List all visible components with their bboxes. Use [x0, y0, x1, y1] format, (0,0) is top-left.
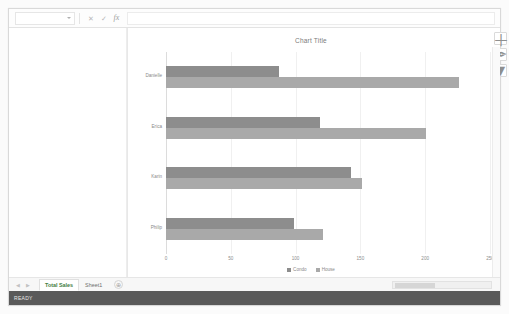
axis-tick-label: 50 — [228, 256, 233, 261]
status-bar: READY — [9, 291, 500, 305]
sheet-nav-buttons: ◀ ▶ — [14, 282, 31, 288]
value-axis-ticks: 050100150200250 — [166, 256, 490, 266]
axis-tick-label: 200 — [421, 256, 429, 261]
gridline — [490, 52, 491, 254]
sheet-tab-sheet1[interactable]: Sheet1 — [79, 279, 108, 291]
chart-object[interactable]: Chart Title DanielleEricaKarinPhilip 050… — [127, 28, 494, 282]
insert-function-icon[interactable]: fx — [110, 12, 123, 25]
plot-area: DanielleEricaKarinPhilip — [166, 52, 490, 254]
legend-item[interactable]: House — [316, 267, 335, 272]
horizontal-scrollbar[interactable] — [392, 281, 492, 289]
chart-title[interactable]: Chart Title — [128, 37, 494, 44]
add-sheet-icon[interactable]: ⊕ — [114, 280, 123, 289]
horizontal-scrollbar-thumb[interactable] — [395, 283, 435, 288]
bar[interactable] — [166, 66, 279, 77]
bar-group: Philip — [166, 204, 490, 255]
bar[interactable] — [166, 77, 459, 88]
chart-elements-icon[interactable]: ＋ — [494, 32, 507, 45]
cancel-formula-icon[interactable]: ✕ — [84, 12, 97, 25]
spreadsheet-window: ✕ ✓ fx Chart Title DanielleEricaKarinPhi… — [8, 8, 501, 306]
formula-bar: ✕ ✓ fx — [9, 9, 500, 28]
bar[interactable] — [166, 128, 426, 139]
worksheet-body: Chart Title DanielleEricaKarinPhilip 050… — [9, 28, 500, 282]
status-text: READY — [14, 295, 33, 301]
formula-input[interactable] — [127, 12, 495, 25]
bar-group: Erica — [166, 103, 490, 154]
axis-tick-label: 150 — [357, 256, 365, 261]
legend-swatch — [316, 268, 320, 272]
category-label: Danielle — [145, 74, 162, 79]
sheet-tabs: Total SalesSheet1 — [39, 278, 108, 291]
worksheet-grid-area[interactable] — [9, 28, 127, 282]
chart-legend[interactable]: CondoHouse — [128, 267, 494, 272]
category-label: Philip — [151, 226, 162, 231]
bar[interactable] — [166, 167, 351, 178]
sheet-tab-total-sales[interactable]: Total Sales — [39, 279, 79, 291]
legend-swatch — [287, 268, 291, 272]
bar[interactable] — [166, 218, 294, 229]
bar[interactable] — [166, 178, 362, 189]
name-box[interactable] — [15, 12, 75, 25]
legend-label: Condo — [293, 267, 307, 272]
excel-window-screenshot: ✕ ✓ fx Chart Title DanielleEricaKarinPhi… — [0, 0, 509, 314]
bar[interactable] — [166, 117, 320, 128]
bar[interactable] — [166, 229, 323, 240]
vertical-scrollbar[interactable] — [492, 47, 500, 301]
sheet-nav-next-icon[interactable]: ▶ — [24, 282, 31, 288]
bar-group: Danielle — [166, 52, 490, 103]
legend-label: House — [322, 267, 335, 272]
category-label: Karin — [151, 175, 162, 180]
axis-tick-label: 100 — [292, 256, 300, 261]
bar-group: Karin — [166, 153, 490, 204]
axis-tick-label: 0 — [165, 256, 168, 261]
chevron-down-icon[interactable] — [67, 17, 71, 19]
divider — [79, 13, 80, 24]
legend-item[interactable]: Condo — [287, 267, 307, 272]
category-label: Erica — [152, 125, 162, 130]
confirm-formula-icon[interactable]: ✓ — [97, 12, 110, 25]
sheet-nav-prev-icon[interactable]: ◀ — [14, 282, 21, 288]
